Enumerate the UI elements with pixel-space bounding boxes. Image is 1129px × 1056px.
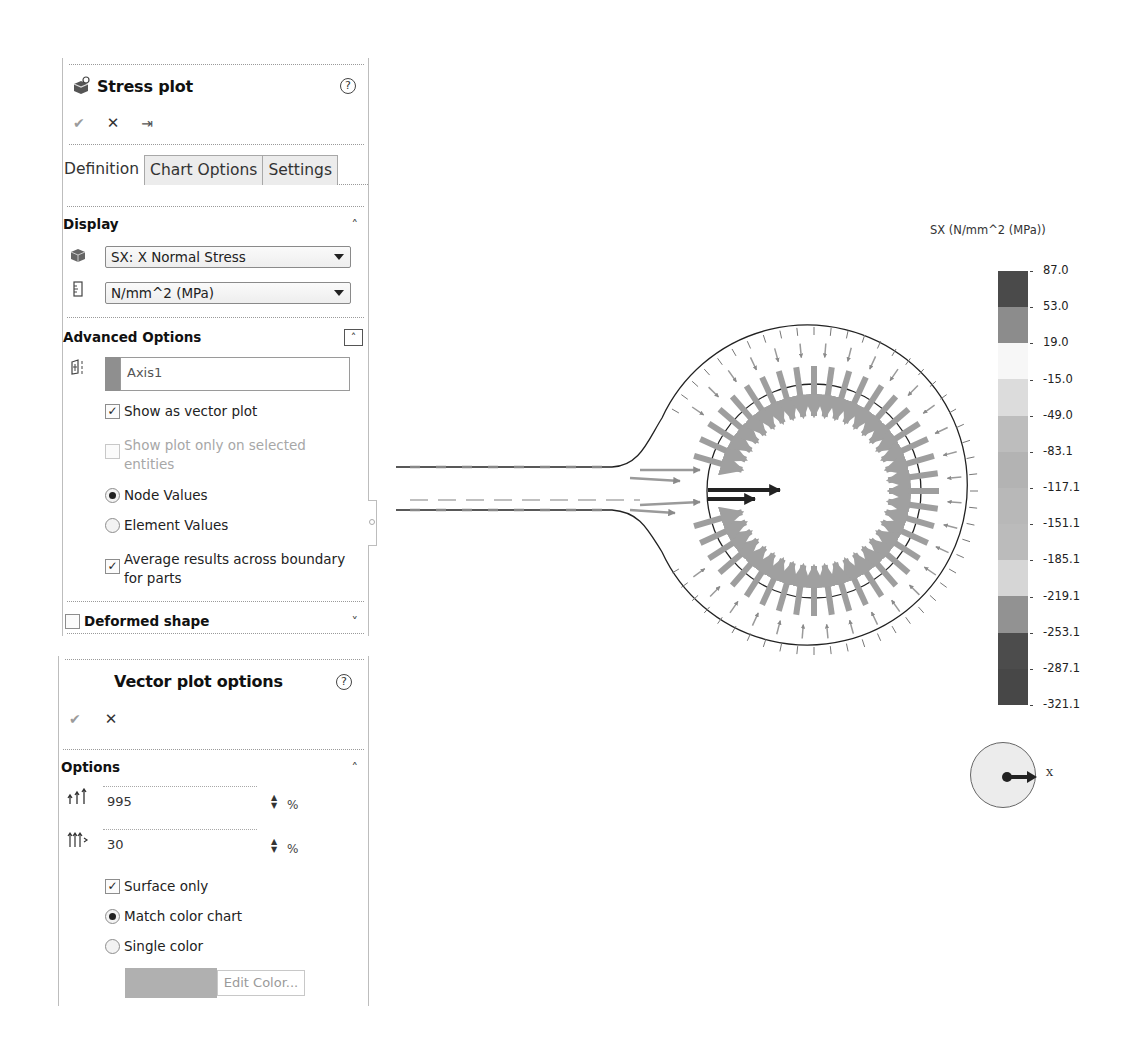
legend-tick [1030,524,1033,525]
legend-value-label: -321.1 [1043,697,1080,711]
legend-color-band [998,488,1028,524]
legend-value-label: -287.1 [1043,661,1080,675]
legend-value-label: 87.0 [1043,263,1069,277]
x-axis-label: X [1046,767,1053,778]
legend-color-band [998,343,1028,379]
legend-color-band [998,379,1028,415]
legend-color-band [998,416,1028,452]
legend-value-label: -185.1 [1043,552,1080,566]
legend-value-label: -83.1 [1043,444,1073,458]
legend-color-band [998,560,1028,596]
x-axis-arrow-icon [971,743,1037,809]
legend-tick [1030,452,1033,453]
legend-color-band [998,596,1028,632]
legend-tick [1030,380,1033,381]
legend-tick [1030,669,1033,670]
legend-tick [1030,597,1033,598]
legend-tick [1030,560,1033,561]
legend-value-label: 19.0 [1043,335,1069,349]
legend-color-band [998,633,1028,669]
neck-vector-arrows [410,467,700,513]
orientation-triad [970,742,1036,808]
legend-value-label: -49.0 [1043,408,1073,422]
legend-value-label: -117.1 [1043,480,1080,494]
legend-tick [1030,488,1033,489]
legend-color-band [998,669,1028,705]
legend-tick [1030,416,1033,417]
vector-plot-model-view[interactable] [0,0,1129,1056]
legend-color-band [998,524,1028,560]
legend-value-label: -151.1 [1043,516,1080,530]
legend-value-label: -15.0 [1043,372,1073,386]
legend-value-label: -219.1 [1043,589,1080,603]
legend-tick [1030,343,1033,344]
legend-tick [1030,705,1033,706]
legend-tick [1030,271,1033,272]
legend-color-band [998,271,1028,307]
legend-color-band [998,307,1028,343]
legend-value-label: 53.0 [1043,299,1069,313]
legend-value-label: -253.1 [1043,625,1080,639]
max-stress-arrows [708,490,780,499]
legend-tick [1030,307,1033,308]
legend-tick [1030,633,1033,634]
part-outline [396,325,967,645]
legend-color-band [998,452,1028,488]
legend-title: SX (N/mm^2 (MPa)) [930,223,1046,237]
color-legend-bar[interactable] [998,271,1028,705]
